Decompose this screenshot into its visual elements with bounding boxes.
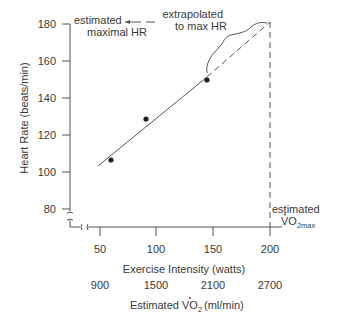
data-point: [108, 157, 113, 162]
annotation-vo2max-v: VO: [281, 215, 297, 227]
vdot-mark: [189, 297, 191, 299]
annotation-vo2max-sub: 2max: [297, 221, 316, 230]
arrow-left-icon: [125, 20, 130, 24]
x-tick-labels: 50 100 150 200: [94, 243, 279, 255]
annotation-vo2max: estimated VO2max: [272, 203, 320, 230]
regression-line: [98, 77, 207, 166]
svg-text:Estimated VO2(ml/min): Estimated VO2(ml/min): [130, 299, 244, 314]
annotation-max-hr: estimated maximal HR: [74, 14, 155, 38]
x2-tick-label: 1500: [144, 279, 168, 291]
annotation-extrap-line2: to max HR: [175, 20, 227, 32]
annotation-vo2max-line1: estimated: [272, 203, 320, 215]
x2-title-unit: (ml/min): [204, 299, 244, 311]
x-tick-label: 150: [204, 243, 222, 255]
y-axis: [62, 24, 80, 227]
data-point: [204, 77, 209, 82]
annotation-max-hr-line1: estimated: [74, 14, 122, 26]
annotation-extrap-line1: extrapolated: [162, 8, 223, 20]
svg-text:VO2max: VO2max: [281, 215, 315, 230]
y-axis-title: Heart Rate (beats/min): [18, 62, 30, 173]
y-tick-label: 140: [38, 92, 56, 104]
y-tick-label: 160: [38, 55, 56, 67]
x2-tick-labels: 900 1500 2100 2700: [91, 279, 282, 291]
x2-tick-label: 2700: [258, 279, 282, 291]
y-tick-labels: 180 160 140 120 100 80: [38, 18, 56, 215]
x2-tick-label: 2100: [201, 279, 225, 291]
y-tick-label: 120: [38, 129, 56, 141]
data-points: [108, 77, 209, 162]
x-axis-title: Exercise Intensity (watts): [123, 263, 245, 275]
x-tick-label: 100: [147, 243, 165, 255]
heart-rate-vs-exercise-chart: 180 160 140 120 100 80 Heart Rate (beats…: [0, 0, 338, 323]
y-tick-label: 80: [44, 203, 56, 215]
annotation-extrapolated: extrapolated to max HR: [162, 8, 267, 73]
x2-title-sub: 2: [198, 305, 202, 314]
x-tick-label: 200: [261, 243, 279, 255]
y-tick-label: 100: [38, 166, 56, 178]
x2-axis-title: Estimated VO2(ml/min): [130, 297, 244, 314]
x-tick-label: 50: [94, 243, 106, 255]
data-point: [143, 116, 148, 121]
x2-tick-label: 900: [91, 279, 109, 291]
y-tick-label: 180: [38, 18, 56, 30]
x2-title-main: Estimated V: [130, 299, 190, 311]
vdot-mark: [284, 214, 286, 216]
x-axis: [81, 224, 282, 236]
annotation-max-hr-line2: maximal HR: [87, 26, 147, 38]
